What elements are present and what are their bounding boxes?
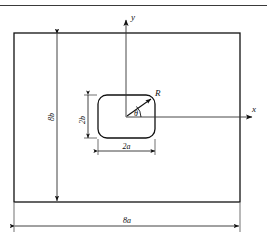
inner-rounded-hole (98, 95, 155, 138)
dim-8b-label: 8b (47, 113, 56, 121)
dim-2b-label: 2b (78, 116, 87, 124)
y-axis-label: y (130, 12, 135, 22)
x-axis-label: x (251, 104, 256, 114)
angle-label: θ (134, 109, 138, 118)
radius-label: R (154, 88, 161, 98)
dim-2a-label: 2a (123, 142, 131, 151)
dim-8a-label: 8a (123, 216, 131, 225)
radius-arrow-line (127, 99, 151, 116)
dimension-diagram: y x R θ 2b 2a 8b 8a (0, 0, 267, 244)
figure-root: y x R θ 2b 2a 8b 8a (0, 0, 267, 244)
